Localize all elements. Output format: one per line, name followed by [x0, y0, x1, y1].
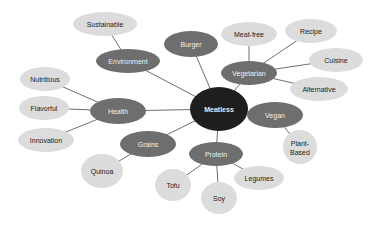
node-meat-free-label: Meat-free: [234, 31, 264, 38]
node-nutritious[interactable]: Nutritious: [20, 67, 70, 91]
node-cuisine[interactable]: Cuisine: [309, 48, 363, 72]
node-tofu-label: Tofu: [166, 182, 179, 189]
node-cuisine-label: Cuisine: [324, 57, 347, 64]
node-environment-label: Environment: [108, 58, 147, 65]
node-grains-label: Grains: [138, 141, 159, 148]
node-quinoa-label: Quinoa: [91, 168, 114, 176]
node-nutritious-label: Nutritious: [30, 76, 60, 83]
node-sustainable[interactable]: Sustainable: [73, 12, 137, 36]
node-protein[interactable]: Protein: [189, 142, 243, 166]
node-vegan[interactable]: Vegan: [247, 102, 303, 128]
node-meatless[interactable]: Meatless: [190, 87, 248, 131]
node-meatless-label: Meatless: [204, 106, 234, 113]
node-soy-label: Soy: [213, 195, 226, 203]
node-burger[interactable]: Burger: [164, 31, 218, 57]
node-burger-label: Burger: [180, 41, 202, 49]
node-alternative[interactable]: Alternative: [290, 77, 348, 101]
node-legumes[interactable]: Legumes: [234, 166, 284, 190]
node-meat-free[interactable]: Meat-free: [221, 22, 277, 46]
node-flavorful[interactable]: Flavorful: [19, 96, 69, 120]
node-protein-label: Protein: [205, 151, 227, 158]
node-innovation-label: Innovation: [30, 137, 62, 144]
node-health[interactable]: Health: [90, 98, 146, 124]
node-alternative-label: Alternative: [302, 86, 335, 93]
node-recipe[interactable]: Recipe: [285, 19, 337, 43]
node-health-label: Health: [108, 108, 128, 115]
node-soy[interactable]: Soy: [201, 182, 237, 214]
node-plant-based-shape: [283, 130, 317, 164]
node-grains[interactable]: Grains: [120, 131, 176, 157]
node-recipe-label: Recipe: [300, 28, 322, 36]
node-flavorful-label: Flavorful: [31, 105, 58, 112]
node-sustainable-label: Sustainable: [87, 21, 124, 28]
node-vegetarian[interactable]: Vegetarian: [221, 61, 277, 85]
node-vegetarian-label: Vegetarian: [232, 70, 266, 78]
mind-map-canvas: MeatlessEnvironmentBurgerVegetarianVegan…: [0, 0, 378, 225]
node-legumes-label: Legumes: [245, 175, 274, 183]
mind-map-nodes: MeatlessEnvironmentBurgerVegetarianVegan…: [18, 12, 363, 214]
node-plant-based[interactable]: Plant-Based: [283, 130, 317, 164]
node-innovation[interactable]: Innovation: [18, 128, 74, 152]
node-vegan-label: Vegan: [265, 112, 285, 120]
node-tofu[interactable]: Tofu: [155, 169, 191, 201]
node-environment[interactable]: Environment: [96, 49, 160, 73]
node-quinoa[interactable]: Quinoa: [81, 154, 123, 188]
